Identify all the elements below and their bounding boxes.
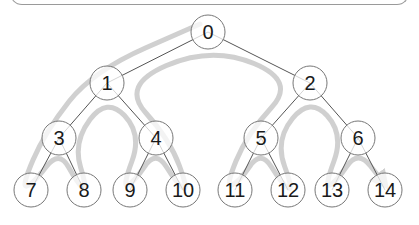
node-label: 1 bbox=[101, 72, 112, 94]
tree-node-12: 12 bbox=[271, 173, 305, 207]
node-label: 4 bbox=[150, 127, 161, 149]
node-label: 0 bbox=[202, 21, 213, 43]
tree-node-13: 13 bbox=[315, 173, 349, 207]
tree-node-11: 11 bbox=[218, 173, 252, 207]
tree-node-9: 9 bbox=[113, 173, 147, 207]
node-label: 3 bbox=[53, 127, 64, 149]
tree-node-2: 2 bbox=[293, 66, 327, 100]
node-label: 8 bbox=[78, 179, 89, 201]
tree-node-4: 4 bbox=[139, 121, 173, 155]
tree-node-3: 3 bbox=[42, 121, 76, 155]
tree-node-10: 10 bbox=[166, 173, 200, 207]
tree-nodes: 01234567891011121314 bbox=[14, 15, 402, 207]
tree-node-14: 14 bbox=[368, 173, 402, 207]
node-label: 2 bbox=[304, 72, 315, 94]
node-label: 9 bbox=[124, 179, 135, 201]
node-label: 5 bbox=[255, 127, 266, 149]
node-label: 11 bbox=[225, 179, 246, 201]
tree-node-8: 8 bbox=[67, 173, 101, 207]
tree-node-0: 0 bbox=[191, 15, 225, 49]
node-label: 7 bbox=[25, 179, 36, 201]
node-label: 14 bbox=[374, 179, 396, 201]
binary-tree-diagram: 01234567891011121314 bbox=[0, 0, 419, 225]
node-label: 13 bbox=[321, 179, 343, 201]
node-label: 12 bbox=[277, 179, 299, 201]
tree-node-1: 1 bbox=[90, 66, 124, 100]
node-label: 10 bbox=[172, 179, 194, 201]
node-label: 6 bbox=[352, 127, 363, 149]
tree-node-5: 5 bbox=[244, 121, 278, 155]
tree-node-7: 7 bbox=[14, 173, 48, 207]
tree-node-6: 6 bbox=[341, 121, 375, 155]
